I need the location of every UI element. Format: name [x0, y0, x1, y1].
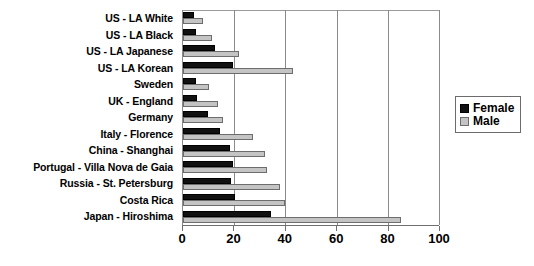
x-axis-tick-labels: 020406080100 [182, 232, 439, 252]
category-label: US - LA Black [0, 27, 178, 44]
bar-group [183, 175, 439, 192]
category-label: Italy - Florence [0, 126, 178, 143]
bar-male [183, 151, 265, 157]
plot-area [182, 10, 439, 225]
category-label: US - LA Korean [0, 60, 178, 77]
bar-male [183, 184, 280, 190]
bar-male [183, 35, 212, 41]
bar-male [183, 167, 267, 173]
category-label: China - Shanghai [0, 142, 178, 159]
bar-male [183, 18, 203, 24]
x-tick-label: 80 [380, 232, 394, 245]
bar-group [183, 27, 439, 44]
chart-legend: FemaleMale [455, 96, 521, 133]
bar-group [183, 76, 439, 93]
bar-group [183, 60, 439, 77]
legend-swatch-icon [460, 117, 469, 126]
x-tick-label: 60 [329, 232, 343, 245]
category-label: US - LA White [0, 10, 178, 27]
category-label: Sweden [0, 76, 178, 93]
category-label: Costa Rica [0, 192, 178, 209]
category-label: UK - England [0, 93, 178, 110]
bar-group [183, 142, 439, 159]
x-tick-label: 20 [226, 232, 240, 245]
legend-label: Male [473, 115, 500, 127]
bar-rows [183, 10, 439, 225]
category-label: Japan - Hiroshima [0, 208, 178, 225]
bar-group [183, 109, 439, 126]
bar-male [183, 200, 285, 206]
category-label: Russia - St. Petersburg [0, 175, 178, 192]
bar-group [183, 10, 439, 27]
category-label: Portugal - Villa Nova de Gaia [0, 159, 178, 176]
bar-group [183, 192, 439, 209]
legend-label: Female [473, 102, 514, 114]
x-tick-label: 100 [428, 232, 450, 245]
category-label: US - LA Japanese [0, 43, 178, 60]
bar-group [183, 159, 439, 176]
bar-male [183, 84, 209, 90]
bar-male [183, 101, 218, 107]
bar-group [183, 126, 439, 143]
bar-male [183, 51, 239, 57]
bar-male [183, 217, 401, 223]
bar-chart: US - LA WhiteUS - LA BlackUS - LA Japane… [0, 0, 534, 266]
bar-group [183, 208, 439, 225]
legend-item-male: Male [460, 115, 514, 127]
bar-male [183, 68, 293, 74]
category-label: Germany [0, 109, 178, 126]
bar-male [183, 134, 253, 140]
category-axis-labels: US - LA WhiteUS - LA BlackUS - LA Japane… [0, 10, 178, 225]
x-axis-ticks [182, 226, 439, 231]
legend-item-female: Female [460, 102, 514, 114]
bar-male [183, 117, 223, 123]
x-tick-label: 40 [278, 232, 292, 245]
legend-swatch-icon [460, 104, 469, 113]
bar-group [183, 93, 439, 110]
x-tick-label: 0 [178, 232, 185, 245]
bar-group [183, 43, 439, 60]
gridline [439, 10, 440, 225]
